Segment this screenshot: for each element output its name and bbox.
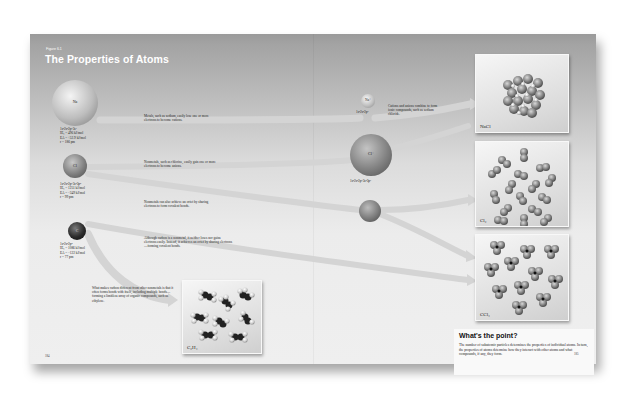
caption-carbon: Although carbon is a nonmetal, it neithe… [144,236,232,249]
caption-ionic-compounds: Cations and anions combine to form ionic… [388,104,444,117]
carbon-properties: 1s²2s²2p² IE₁ = 1086 kJ/mol EA = −122 kJ… [60,242,85,260]
textbook-spread: Figure 6.1 The Properties of Atoms [30,34,596,364]
chlorine-atom: Cl [63,154,87,178]
cl2-molecules-image [476,142,568,226]
panel-ccl4: CCl₄ [475,234,569,321]
whats-the-point-box: What's the point? The number of subatomi… [454,329,594,375]
panel-label-cl2: Cl₂ [480,218,486,223]
sodium-ion-symbol: Na⁺ [361,98,375,102]
chloride-ion-symbol: Cl⁻ [350,151,392,156]
chlorine-symbol: Cl [63,163,87,168]
carbon-atom: C [68,222,86,240]
panel-label-c2h4: C₂H₄ [187,345,197,350]
caption-metals: Metals, such as sodium, easily lose one … [144,114,216,122]
page-number-right: 185 [574,352,579,356]
panel-label-nacl: NaCl [480,124,491,129]
carbon-symbol: C [68,228,86,233]
caption-carbon-bonding: What makes carbon different from other n… [92,286,180,303]
sodium-radius: r = 186 pm [60,140,86,144]
c2h4-molecules-image [183,281,261,353]
chloride-ion-configuration: 1s²2s²2p⁶3s²3p⁶ [350,179,371,183]
nacl-lattice-image [476,55,568,132]
carbon-radius: r = 77 pm [60,255,85,259]
chloride-ion: Cl⁻ [350,134,392,176]
shared-chlorine-atom [359,200,381,222]
panel-nacl: NaCl [475,54,569,133]
caption-nonmetals-covalent: Nonmetals can also achieve an octet by s… [144,200,218,208]
chlorine-properties: 1s²2s²2p⁶3s²3p⁵ IE₁ = 1251 kJ/mol EA = −… [60,182,85,200]
whats-the-point-title: What's the point? [459,332,517,339]
panel-label-ccl4: CCl₄ [480,312,490,317]
panel-cl2: Cl₂ [475,141,569,227]
whats-the-point-body: The number of subatomic particles determ… [459,343,589,357]
sodium-atom: Na [52,80,98,126]
chlorine-radius: r = 99 pm [60,195,85,199]
sodium-ion-configuration: 1s²2s²2p⁶ [356,110,369,114]
sodium-properties: 1s²2s²2p⁶3s¹ IE₁ = 496 kJ/mol EA = +52.9… [60,127,86,145]
panel-c2h4: C₂H₄ [182,280,262,354]
caption-nonmetals-anions: Nonmetals, such as chlorine, easily gain… [144,160,218,168]
sodium-ion: Na⁺ [361,94,375,108]
sodium-symbol: Na [52,99,98,104]
ccl4-molecules-image [476,235,568,320]
page-number-left: 184 [45,354,50,358]
